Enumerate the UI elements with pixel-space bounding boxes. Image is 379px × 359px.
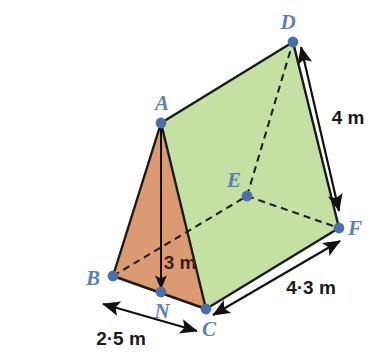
vertex-dot-A: [156, 118, 167, 129]
vertex-dot-B: [108, 271, 119, 282]
vertex-label-D: D: [280, 12, 295, 33]
dimension-label-height-3m: 3 m: [164, 253, 197, 272]
vertex-label-A: A: [155, 93, 169, 114]
vertex-label-N: N: [154, 301, 169, 322]
vertex-dot-D: [288, 37, 299, 48]
dimension-label-length-4-3m: 4·3 m: [286, 278, 336, 297]
dimension-label-length-4m: 4 m: [332, 108, 365, 127]
vertex-dot-C: [201, 304, 212, 315]
vertex-label-C: C: [202, 319, 216, 340]
dimension-label-width-2-5m: 2·5 m: [96, 329, 146, 348]
vertex-label-B: B: [86, 268, 100, 289]
vertex-label-F: F: [348, 218, 362, 239]
vertex-label-E: E: [227, 170, 241, 191]
vertex-dot-F: [334, 223, 345, 234]
vertex-dot-N: [156, 287, 167, 298]
geometry-diagram: A B C D E F N 3 m 4 m 4·3 m 2·5 m: [0, 0, 379, 359]
vertex-dot-E: [242, 191, 253, 202]
prism-canvas: [0, 0, 379, 359]
